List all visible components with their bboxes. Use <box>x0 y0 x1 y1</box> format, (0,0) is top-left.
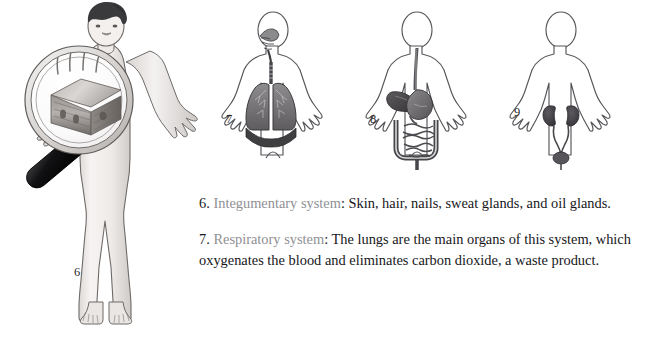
caption-integumentary: 6. Integumentary system: Skin, hair, nai… <box>199 193 636 215</box>
caption-number-7: 7. <box>199 231 210 247</box>
integumentary-system-figure <box>6 2 206 332</box>
caption-system-name-respiratory: Respiratory system <box>213 231 324 247</box>
figure-number-6: 6 <box>74 265 80 280</box>
feet <box>80 302 131 324</box>
caption-respiratory: 7. Respiratory system: The lungs are the… <box>199 229 636 272</box>
digestive-system-figure <box>352 8 482 178</box>
caption-number-6: 6. <box>199 195 210 211</box>
figure-number-8: 8 <box>370 112 376 127</box>
caption-system-name-integumentary: Integumentary system <box>213 195 341 211</box>
respiratory-system-figure <box>208 8 338 178</box>
figure-number-7: 7 <box>226 112 232 127</box>
bladder <box>553 152 569 164</box>
right-eye <box>113 24 118 27</box>
illustration-page: 6 <box>0 0 650 340</box>
caption-text-column: 6. Integumentary system: Skin, hair, nai… <box>199 193 636 272</box>
body-outline <box>510 12 610 158</box>
head <box>88 2 127 46</box>
caption-body-integumentary: Skin, hair, nails, sweat glands, and oil… <box>349 195 611 211</box>
left-eye <box>96 24 101 27</box>
right-arm <box>126 51 197 138</box>
urinary-system-figure <box>496 8 626 178</box>
figure-number-9: 9 <box>514 105 520 120</box>
magnifier-lens <box>25 46 133 154</box>
